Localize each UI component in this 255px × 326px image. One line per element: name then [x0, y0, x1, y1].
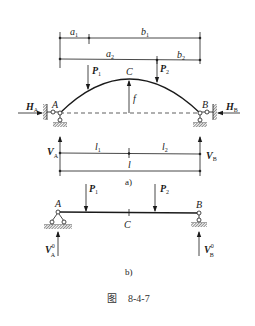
arch-curve: [60, 79, 200, 113]
label-a1: a1: [70, 26, 78, 38]
label-support-b: B: [202, 99, 208, 110]
label-va: VA: [47, 146, 59, 159]
dimension-l: [59, 170, 201, 172]
figure-caption: 图 8-4-7: [107, 293, 150, 304]
label-b2: b2: [177, 49, 185, 61]
support-a-pin: [44, 210, 72, 229]
label-support-a-beam: A: [54, 198, 62, 209]
label-a2: a2: [106, 48, 114, 60]
label-hb: HB: [225, 101, 238, 113]
panel-b-label: b): [125, 267, 133, 277]
label-rise-f: f: [133, 93, 137, 104]
label-vb: VB: [206, 150, 217, 162]
caption-prefix: 图: [107, 293, 117, 304]
panel-a-labels: a1 b1 a2 b2 P1 P2 C f A B HA HB VA VB l1…: [25, 26, 238, 187]
label-l1: l1: [95, 141, 101, 153]
label-support-b-beam: B: [196, 199, 202, 210]
panel-b-labels: P1 P2 A B C V0A V0B b): [45, 183, 214, 277]
three-hinged-arch-figure: a1 b1 a2 b2 P1 P2 C f A B HA HB VA VB l1…: [0, 0, 255, 326]
simple-beam: [58, 212, 199, 213]
label-midpoint-c: C: [124, 219, 131, 230]
label-p2: P2: [160, 63, 169, 75]
label-l2: l2: [162, 141, 168, 153]
label-l: l: [128, 159, 131, 170]
label-vb0: V0B: [204, 243, 214, 258]
label-crown-c: C: [126, 66, 133, 77]
label-b1: b1: [141, 26, 149, 38]
label-p1-beam: P1: [89, 183, 98, 195]
label-support-a: A: [51, 99, 59, 110]
caption-number: 8-4-7: [128, 293, 150, 304]
panel-a-label: a): [125, 177, 132, 187]
label-ha: HA: [25, 101, 39, 113]
label-p2-beam: P2: [160, 183, 169, 195]
label-p1: P1: [92, 65, 101, 77]
label-va0: V0A: [45, 243, 56, 258]
